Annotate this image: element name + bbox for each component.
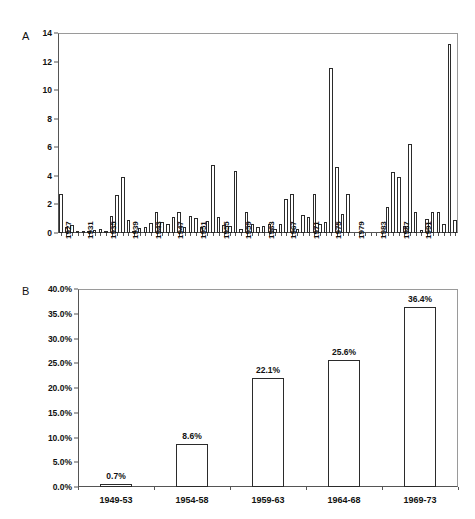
x-tick-mark	[78, 487, 79, 490]
x-tick-mark	[151, 233, 152, 236]
x-tick-mark	[438, 233, 439, 236]
bar	[262, 226, 265, 233]
bar	[176, 444, 208, 487]
x-tick-mark	[382, 487, 383, 490]
x-tick-label: 1954-58	[175, 495, 208, 505]
bar	[329, 68, 332, 233]
x-tick-mark	[354, 233, 355, 236]
x-tick-label: 1959-63	[251, 495, 284, 505]
x-tick-mark	[106, 233, 107, 236]
x-tick-mark	[258, 233, 259, 236]
x-tick-label: 1983	[379, 221, 388, 239]
bar	[211, 165, 214, 233]
y-tick-mark	[54, 33, 58, 34]
y-tick-mark	[74, 462, 78, 463]
x-tick-label: 1987	[402, 221, 411, 239]
x-tick-label: 1949-53	[99, 495, 132, 505]
x-tick-mark	[196, 233, 197, 236]
y-tick-mark	[54, 147, 58, 148]
x-tick-label: 1951	[199, 221, 208, 239]
x-tick-mark	[306, 487, 307, 490]
x-tick-mark	[455, 233, 456, 236]
bar	[448, 44, 451, 233]
bar-value-label: 8.6%	[182, 431, 201, 441]
x-tick-label: 1991	[424, 221, 433, 239]
bar	[404, 307, 436, 487]
bar	[301, 215, 304, 233]
x-tick-mark	[444, 233, 445, 236]
x-tick-label: 1967	[289, 221, 298, 239]
panel-a-letter: A	[22, 30, 30, 42]
bar	[127, 220, 130, 233]
x-tick-label: 1947	[176, 221, 185, 239]
x-tick-mark	[331, 233, 332, 236]
bar	[442, 224, 445, 233]
bar-value-label: 22.1%	[256, 365, 280, 375]
x-tick-mark	[154, 487, 155, 490]
x-tick-mark	[376, 233, 377, 236]
x-tick-mark	[61, 233, 62, 236]
x-tick-mark	[190, 233, 191, 236]
x-tick-label: 1969-73	[403, 495, 436, 505]
bar	[397, 177, 400, 233]
y-tick-mark	[74, 363, 78, 364]
x-tick-mark	[303, 233, 304, 236]
y-tick-mark	[74, 412, 78, 413]
x-tick-mark	[173, 233, 174, 236]
bar-value-label: 0.7%	[106, 471, 125, 481]
bar	[217, 217, 220, 233]
x-tick-label: 1955	[222, 221, 231, 239]
bar	[121, 177, 124, 233]
bar	[437, 212, 440, 233]
bar	[59, 194, 62, 233]
x-tick-label: 1943	[154, 221, 163, 239]
x-tick-mark	[168, 233, 169, 236]
x-tick-mark	[123, 233, 124, 236]
x-tick-mark	[416, 233, 417, 236]
x-tick-mark	[450, 233, 451, 236]
x-tick-label: 1927	[64, 221, 73, 239]
y-tick-mark	[54, 204, 58, 205]
panel-a-plot-area: 02468101214 1927193119351939194319471951…	[58, 33, 458, 233]
panel-b: B 0.0%5.0%10.0%15.0%20.0%25.0%30.0%35.0%…	[0, 272, 475, 519]
x-tick-mark	[281, 233, 282, 236]
bar	[234, 171, 237, 233]
bar	[284, 199, 287, 233]
y-tick-mark	[74, 338, 78, 339]
panel-a: A 02468101214 19271931193519391943194719…	[0, 0, 475, 272]
y-tick-mark	[54, 175, 58, 176]
panel-b-plot-area: 0.0%5.0%10.0%15.0%20.0%25.0%30.0%35.0%40…	[78, 289, 458, 487]
y-tick-mark	[54, 61, 58, 62]
bar	[328, 360, 360, 487]
x-tick-mark	[213, 233, 214, 236]
bar	[149, 223, 152, 233]
bar	[194, 218, 197, 233]
panel-b-letter: B	[22, 285, 30, 297]
bar	[307, 217, 310, 233]
bar	[324, 222, 327, 233]
x-tick-label: 1979	[357, 221, 366, 239]
panel-a-bars	[58, 33, 458, 233]
y-tick-mark	[74, 388, 78, 389]
x-tick-label: 1964-68	[327, 495, 360, 505]
bar	[252, 378, 284, 487]
x-tick-mark	[219, 233, 220, 236]
x-tick-mark	[458, 487, 459, 490]
x-tick-label: 1975	[334, 221, 343, 239]
y-tick-mark	[74, 313, 78, 314]
x-tick-label: 1935	[109, 221, 118, 239]
x-tick-mark	[78, 233, 79, 236]
bar	[279, 224, 282, 233]
x-tick-label: 1971	[312, 221, 321, 239]
bar	[189, 216, 192, 233]
bar	[391, 172, 394, 233]
x-tick-mark	[421, 233, 422, 236]
x-tick-mark	[145, 233, 146, 236]
x-tick-label: 1931	[86, 221, 95, 239]
y-tick-mark	[54, 118, 58, 119]
bar	[172, 217, 175, 233]
x-tick-mark	[393, 233, 394, 236]
bar	[408, 144, 411, 233]
bar	[414, 212, 417, 233]
x-tick-mark	[309, 233, 310, 236]
